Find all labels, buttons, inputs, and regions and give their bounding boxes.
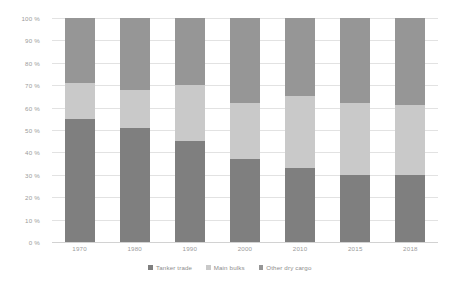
y-axis-tick-label: 70 % (25, 82, 40, 89)
legend-item[interactable]: Main bulks (206, 264, 245, 271)
x-axis-tick: 2015 (340, 245, 370, 259)
bar-group[interactable] (285, 18, 315, 242)
x-axis-tick: 2018 (395, 245, 425, 259)
x-axis-tick-label: 2015 (348, 245, 363, 259)
bar-group[interactable] (65, 18, 95, 242)
y-axis-tick-label: 10 % (25, 216, 40, 223)
x-axis-tick: 2010 (285, 245, 315, 259)
bar-segment[interactable] (65, 83, 95, 119)
bar-segment[interactable] (340, 103, 370, 175)
y-axis-tick-label: 100 % (21, 15, 40, 22)
x-axis-tick-label: 2018 (403, 245, 418, 259)
bar-segment[interactable] (120, 128, 150, 242)
x-axis-tick-label: 1970 (72, 245, 87, 259)
bar-group[interactable] (230, 18, 260, 242)
legend-item[interactable]: Other dry cargo (259, 264, 312, 271)
y-axis-tick-label: 20 % (25, 194, 40, 201)
x-axis-tick: 1980 (120, 245, 150, 259)
x-axis-tick-label: 1990 (183, 245, 198, 259)
bar-segment[interactable] (120, 18, 150, 90)
legend-swatch-icon (259, 265, 264, 270)
bar-segment[interactable] (395, 175, 425, 242)
legend-swatch-icon (148, 265, 153, 270)
bar-segment[interactable] (285, 168, 315, 242)
stacked-bar-chart: 0 %10 %20 %30 %40 %50 %60 %70 %80 %90 %1… (0, 0, 460, 288)
y-axis-tick-label: 60 % (25, 104, 40, 111)
bar-segment[interactable] (120, 90, 150, 128)
legend-swatch-icon (206, 265, 211, 270)
bar-group[interactable] (340, 18, 370, 242)
x-axis-tick-label: 1980 (127, 245, 142, 259)
y-axis-tick-label: 30 % (25, 171, 40, 178)
x-axis-tick-label: 2010 (293, 245, 308, 259)
legend-label: Main bulks (214, 264, 245, 271)
legend-label: Tanker trade (156, 264, 192, 271)
x-axis-tick: 1990 (175, 245, 205, 259)
bar-segment[interactable] (340, 18, 370, 103)
bar-segment[interactable] (285, 18, 315, 96)
x-axis-tick: 2000 (230, 245, 260, 259)
bar-segment[interactable] (65, 18, 95, 83)
bar-group[interactable] (175, 18, 205, 242)
bar-segment[interactable] (175, 18, 205, 85)
x-axis-tick-label: 2000 (238, 245, 253, 259)
y-axis-tick-label: 0 % (29, 239, 40, 246)
x-axis-tick: 1970 (65, 245, 95, 259)
bar-segment[interactable] (395, 105, 425, 174)
bar-segment[interactable] (395, 18, 425, 105)
bar-segment[interactable] (230, 103, 260, 159)
legend-label: Other dry cargo (266, 264, 311, 271)
bar-segment[interactable] (230, 159, 260, 242)
legend-item[interactable]: Tanker trade (148, 264, 192, 271)
bar-segment[interactable] (340, 175, 370, 242)
y-axis-tick-label: 90 % (25, 37, 40, 44)
bar-segment[interactable] (285, 96, 315, 168)
x-axis: 1970198019902000201020152018 (52, 245, 438, 259)
bar-segment[interactable] (175, 141, 205, 242)
y-axis: 0 %10 %20 %30 %40 %50 %60 %70 %80 %90 %1… (0, 18, 46, 242)
bar-segment[interactable] (230, 18, 260, 103)
plot-area (52, 18, 438, 242)
bars-layer (52, 18, 438, 242)
y-axis-tick-label: 80 % (25, 59, 40, 66)
gridline (52, 242, 438, 243)
y-axis-tick-label: 50 % (25, 127, 40, 134)
bar-group[interactable] (395, 18, 425, 242)
bar-group[interactable] (120, 18, 150, 242)
bar-segment[interactable] (65, 119, 95, 242)
bar-segment[interactable] (175, 85, 205, 141)
chart-legend: Tanker tradeMain bulksOther dry cargo (0, 264, 460, 271)
y-axis-tick-label: 40 % (25, 149, 40, 156)
